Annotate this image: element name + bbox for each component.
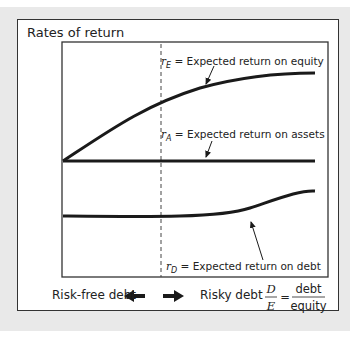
risk-free-debt-label: Risk-free debt — [52, 288, 136, 302]
ra-label: rA = Expected return on assets — [161, 128, 325, 143]
rd-curve — [63, 191, 315, 217]
ra-pointer-arrow — [206, 141, 212, 157]
rd-pointer-arrow — [251, 222, 263, 260]
re-curve — [63, 73, 315, 161]
rd-label: rD = Expected return on debt — [166, 260, 321, 275]
equals-sign: = — [280, 290, 290, 304]
re-label: rE = Expected return on equity — [161, 55, 324, 70]
right-arrow-icon — [163, 290, 184, 302]
ratio-denominator-word: equity — [290, 299, 327, 313]
ratio-numerator-symbol: D — [265, 282, 277, 296]
risky-debt-label: Risky debt — [200, 288, 263, 302]
ratio-numerator-word: debt — [290, 282, 327, 296]
ratio-denominator-symbol: E — [265, 299, 277, 313]
